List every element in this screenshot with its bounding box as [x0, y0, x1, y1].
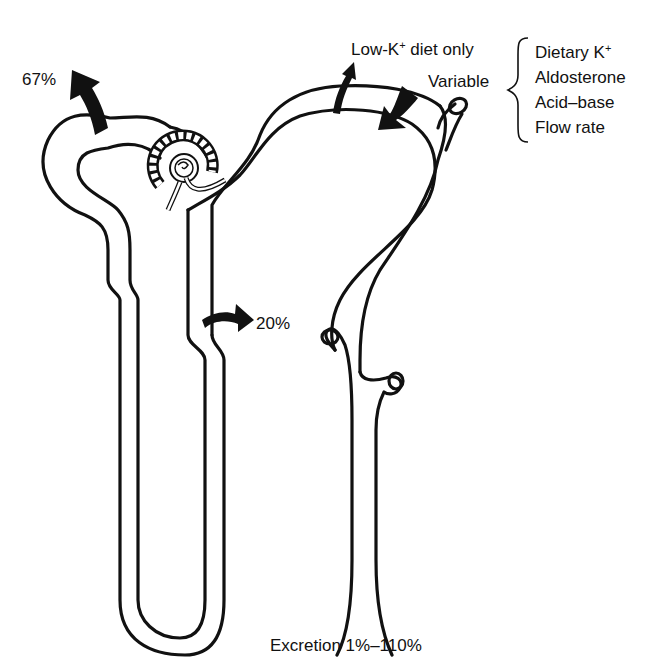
regulators-list: Dietary K+ Aldosterone Acid–base Flow ra… [535, 40, 626, 140]
regulator-aldosterone: Aldosterone [535, 65, 626, 90]
regulator-flow-rate: Flow rate [535, 115, 626, 140]
label-low-k-text: Low-K [351, 40, 399, 59]
label-variable-secretion: Variable [428, 72, 489, 92]
proximal-tubule-and-loop [43, 86, 469, 655]
reabsorption-arrow-20 [202, 304, 254, 332]
regulator-acid-base: Acid–base [535, 90, 626, 115]
reabsorption-arrow-67 [70, 70, 108, 135]
regulator-label: Aldosterone [535, 68, 626, 87]
label-loop-reabsorption: 20% [256, 314, 290, 334]
nephron-diagram: 67% 20% Low-K+ diet only Variable Dietar… [0, 0, 659, 672]
regulator-label: Acid–base [535, 93, 614, 112]
regulators-brace [508, 38, 528, 142]
label-excretion: Excretion 1%–110% [270, 636, 422, 656]
label-proximal-reabsorption: 67% [22, 70, 56, 90]
regulator-label: Dietary K [535, 43, 605, 62]
label-low-k-suffix: diet only [406, 40, 474, 59]
label-low-k-diet: Low-K+ diet only [351, 40, 474, 60]
regulator-label: Flow rate [535, 118, 605, 137]
regulator-sup: + [605, 42, 611, 54]
reabsorption-arrow-low-k [333, 62, 356, 114]
regulator-dietary-k: Dietary K+ [535, 40, 626, 65]
